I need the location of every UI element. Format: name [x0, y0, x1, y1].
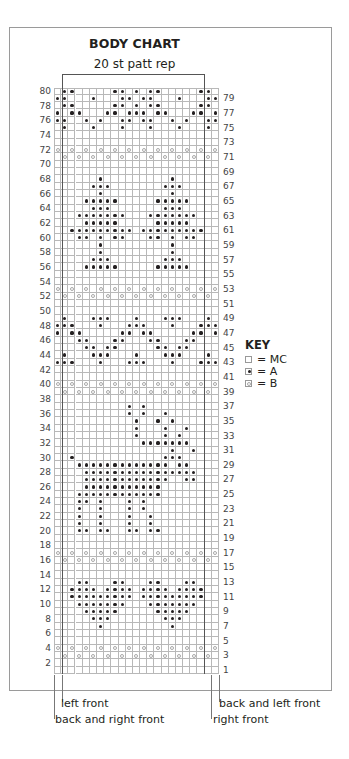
chart-cell [83, 527, 90, 534]
chart-cell [140, 278, 147, 285]
chart-cell [197, 527, 204, 534]
color-a-dot-icon [121, 339, 124, 342]
chart-cell [68, 139, 75, 146]
chart-cell [83, 249, 90, 256]
color-a-dot-icon [56, 119, 59, 122]
chart-cell [190, 645, 197, 652]
chart-cell [76, 615, 83, 622]
row-label-right: 63 [223, 212, 234, 221]
chart-cell [205, 425, 212, 432]
chart-cell [197, 395, 204, 402]
chart-cell [126, 95, 133, 102]
chart-cell [183, 139, 190, 146]
chart-cell [83, 659, 90, 666]
chart-cell [61, 652, 68, 659]
chart-cell [169, 241, 176, 248]
chart-cell [68, 542, 75, 549]
chart-cell [176, 498, 183, 505]
chart-cell [140, 615, 147, 622]
chart-cell [68, 505, 75, 512]
chart-cell [212, 454, 219, 461]
chart-cell [133, 168, 140, 175]
chart-cell [133, 300, 140, 307]
color-a-dot-icon [92, 485, 95, 488]
color-a-dot-icon [106, 478, 109, 481]
row-label-right: 23 [223, 505, 234, 514]
chart-cell [205, 513, 212, 520]
chart-cell [97, 88, 104, 95]
chart-cell [83, 263, 90, 270]
chart-cell [54, 161, 61, 168]
chart-cell [183, 197, 190, 204]
chart-cell [119, 88, 126, 95]
color-b-circle-icon [106, 558, 110, 562]
chart-cell [54, 197, 61, 204]
chart-cell [183, 491, 190, 498]
chart-cell [54, 491, 61, 498]
chart-cell [197, 109, 204, 116]
chart-cell [176, 601, 183, 608]
chart-cell [111, 102, 118, 109]
chart-cell [205, 278, 212, 285]
chart-cell [97, 278, 104, 285]
chart-cell [197, 483, 204, 490]
color-b-circle-icon [213, 382, 217, 386]
chart-cell [83, 124, 90, 131]
color-a-dot-icon [142, 595, 145, 598]
chart-cell [83, 315, 90, 322]
chart-cell [54, 623, 61, 630]
color-b-circle-icon [84, 646, 88, 650]
color-b-circle-icon [206, 155, 210, 159]
chart-cell [147, 249, 154, 256]
chart-cell [140, 124, 147, 131]
color-b-circle-icon [91, 294, 95, 298]
chart-cell [61, 615, 68, 622]
color-a-dot-icon [171, 243, 174, 246]
chart-cell [197, 549, 204, 556]
chart-cell [212, 285, 219, 292]
chart-cell [140, 542, 147, 549]
chart-cell [197, 88, 204, 95]
chart-cell [154, 667, 161, 674]
chart-cell [119, 542, 126, 549]
color-b-circle-icon [149, 654, 153, 658]
chart-cell [205, 432, 212, 439]
chart-cell [169, 227, 176, 234]
color-a-dot-icon [113, 104, 116, 107]
chart-cell [140, 241, 147, 248]
chart-cell [104, 381, 111, 388]
chart-cell [90, 344, 97, 351]
chart-cell [190, 571, 197, 578]
chart-cell [97, 227, 104, 234]
row-label-right: 5 [223, 637, 229, 646]
chart-cell [154, 432, 161, 439]
chart-cell [97, 645, 104, 652]
color-a-dot-icon [207, 324, 210, 327]
chart-cell [176, 88, 183, 95]
chart-cell [83, 520, 90, 527]
chart-cell [205, 109, 212, 116]
row-label-right: 9 [223, 607, 229, 616]
chart-cell [169, 425, 176, 432]
chart-cell [183, 564, 190, 571]
chart-cell [61, 161, 68, 168]
chart-cell [119, 652, 126, 659]
chart-cell [162, 549, 169, 556]
chart-cell [176, 535, 183, 542]
chart-cell [61, 344, 68, 351]
chart-cell [176, 505, 183, 512]
chart-cell [169, 410, 176, 417]
chart-cell [54, 322, 61, 329]
chart-cell [162, 322, 169, 329]
chart-cell [190, 586, 197, 593]
chart-cell [104, 219, 111, 226]
chart-cell [147, 344, 154, 351]
chart-cell [76, 307, 83, 314]
color-a-dot-icon [113, 229, 116, 232]
chart-cell [147, 131, 154, 138]
color-a-dot-icon [142, 463, 145, 466]
chart-cell [111, 652, 118, 659]
chart-cell [190, 608, 197, 615]
chart-cell [76, 645, 83, 652]
row-label-left: 66 [29, 190, 51, 199]
